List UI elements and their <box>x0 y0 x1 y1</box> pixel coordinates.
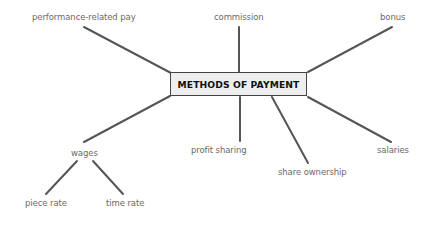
node-performance-related-pay: performance-related pay <box>32 12 136 22</box>
connector-lines <box>0 0 427 228</box>
mind-map-canvas: METHODS OF PAYMENT performance-related p… <box>0 0 427 228</box>
edge-center-performance <box>84 27 171 73</box>
node-commission: commission <box>214 12 264 22</box>
node-time-rate: time rate <box>106 198 144 208</box>
node-share-ownership: share ownership <box>278 167 347 177</box>
edge-center-salaries <box>308 97 391 142</box>
center-node-title: METHODS OF PAYMENT <box>178 79 300 90</box>
node-piece-rate: piece rate <box>25 198 67 208</box>
edge-center-bonus <box>308 27 392 72</box>
edge-center-wages <box>84 96 170 142</box>
node-bonus: bonus <box>380 12 405 22</box>
node-profit-sharing: profit sharing <box>191 145 247 155</box>
node-wages: wages <box>71 148 98 158</box>
node-salaries: salaries <box>377 145 409 155</box>
center-node-box: METHODS OF PAYMENT <box>170 72 307 96</box>
edge-center-share <box>272 97 308 163</box>
edge-wages-piece <box>46 161 77 194</box>
edge-wages-time <box>93 161 123 194</box>
